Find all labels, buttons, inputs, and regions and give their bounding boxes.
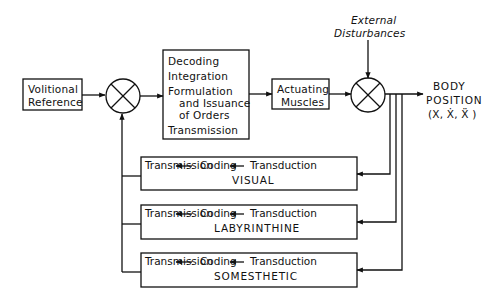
central-transmission: Transmission [168,124,238,136]
output-label-2: POSITION [426,94,482,106]
labyrinthine-transduction: Transduction [250,207,317,219]
somesthetic-coding: Coding [200,255,237,267]
visual-name: VISUAL [232,174,274,186]
labyrinthine-name: LABYRINTHINE [214,222,300,234]
muscles-label-1: Actuating [277,83,329,95]
output-label-1: BODY [433,80,465,92]
labyrinthine-coding: Coding [200,207,237,219]
disturbance-label-2: Disturbances [334,27,405,39]
central-orders: of Orders [179,109,230,121]
disturbance-label-1: External [351,14,396,26]
diagram-canvas [0,0,491,306]
somesthetic-transduction: Transduction [250,255,317,267]
volitional-label-2: Reference [28,96,83,108]
central-decoding: Decoding [168,55,219,67]
output-label-3: (X, Ẋ, Ẍ ) [428,108,476,120]
central-integration: Integration [168,70,228,82]
central-issuance: and Issuance [179,97,251,109]
visual-coding: Coding [200,159,237,171]
central-formulation: Formulation [168,85,233,97]
visual-transduction: Transduction [250,159,317,171]
volitional-label-1: Volitional [28,83,78,95]
somesthetic-name: SOMESTHETIC [214,270,298,282]
muscles-label-2: Muscles [281,96,324,108]
